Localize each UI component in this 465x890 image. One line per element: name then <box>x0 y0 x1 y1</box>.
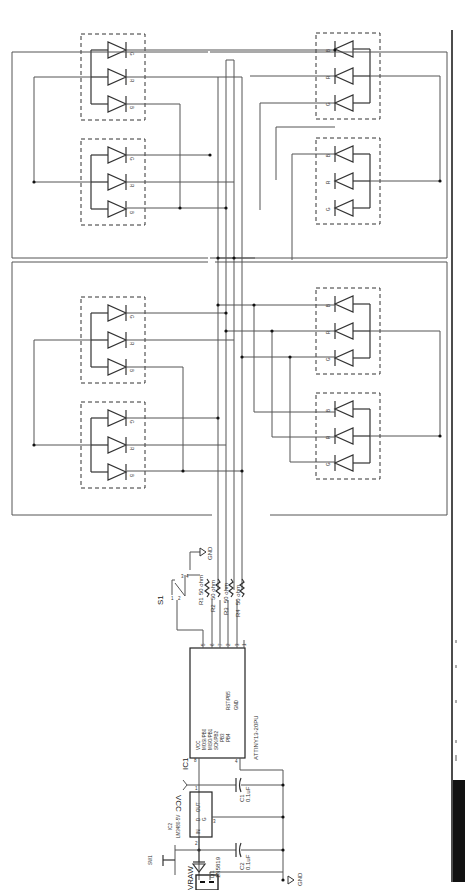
led-label-r: R <box>129 184 134 188</box>
svg-text:0.1uF: 0.1uF <box>245 854 251 870</box>
svg-text:R1: R1 <box>198 597 204 605</box>
svg-text:4: 4 <box>235 759 238 764</box>
svg-text:50 ohm: 50 ohm <box>210 580 216 600</box>
svg-text:50 ohm: 50 ohm <box>235 585 241 605</box>
svg-text:G: G <box>202 817 207 821</box>
svg-text:MOSI/PB0: MOSI/PB0 <box>202 728 207 750</box>
led-label-g: G <box>326 462 331 466</box>
led-label-b: B <box>129 211 134 214</box>
regulator-ic2: OUT D G IN IC2 LM3480-5V 3 1 2 <box>168 786 283 846</box>
resistor-r4: R4 50 ohm <box>235 579 244 617</box>
svg-text:GND: GND <box>207 546 213 560</box>
led-label-b: B <box>129 474 134 477</box>
svg-text:2: 2 <box>195 841 198 846</box>
svg-text:GND: GND <box>234 699 239 710</box>
svg-text:1: 1 <box>171 596 174 601</box>
svg-text:R4: R4 <box>235 609 241 617</box>
caption-strip <box>452 30 465 882</box>
gnd-symbol-bottom: GND <box>288 872 303 886</box>
svg-text:PB3: PB3 <box>220 733 225 742</box>
svg-text:2: 2 <box>178 596 181 601</box>
led-label-g: G <box>129 315 134 319</box>
schematic-canvas: G R B G R B G R B G R B B R G B R G B R … <box>0 0 465 890</box>
svg-text:VRAW: VRAW <box>186 866 195 890</box>
svg-text:R2: R2 <box>210 604 216 612</box>
switch-sw1: SW1 <box>148 845 175 875</box>
svg-text:GND: GND <box>297 872 303 886</box>
led-label-g: G <box>129 420 134 424</box>
led-label-b: B <box>129 106 134 109</box>
led-label-g: G <box>326 357 331 361</box>
led-label-r: R <box>129 447 134 451</box>
svg-text:0.1uF: 0.1uF <box>245 786 251 802</box>
svg-text:VCC: VCC <box>174 795 183 812</box>
resistor-r3: R3 50 ohm <box>223 579 233 615</box>
led-label-r: R <box>129 342 134 346</box>
svg-text:VCC: VCC <box>196 740 201 750</box>
ic1-ref: IC1 <box>181 757 190 770</box>
svg-text:S1: S1 <box>156 595 165 605</box>
svg-text:MISO/PB1: MISO/PB1 <box>208 728 213 750</box>
gnd-symbol-top: GND <box>190 546 213 570</box>
led-label-g: G <box>326 207 331 211</box>
led-label-g: G <box>129 52 134 56</box>
resistor-r1: R1 50 ohm <box>198 575 209 605</box>
svg-text:1: 1 <box>195 786 198 791</box>
svg-text:8: 8 <box>194 758 197 763</box>
ic1-part-number: ATTINY13-20PU <box>253 715 259 760</box>
svg-text:SW1: SW1 <box>148 855 153 865</box>
svg-text:LM3480-5V: LM3480-5V <box>176 815 181 838</box>
svg-text:50 ohm: 50 ohm <box>198 575 204 595</box>
diode-d1: D1 1N5819 <box>193 850 221 878</box>
wiring <box>12 48 447 590</box>
led-label-r: R <box>129 79 134 83</box>
svg-text:PB4: PB4 <box>226 733 231 742</box>
svg-text:IN: IN <box>196 830 201 835</box>
svg-text:IC2: IC2 <box>168 823 173 831</box>
led-label-b: B <box>129 369 134 372</box>
capacitor-c2: C2 0.1uF <box>236 843 283 870</box>
switch-s1: S1 1 2 3 4 <box>156 574 203 630</box>
svg-text:R3: R3 <box>223 607 229 615</box>
svg-text:50 ohm: 50 ohm <box>223 583 229 603</box>
svg-text:SCK/PB2: SCK/PB2 <box>214 730 219 750</box>
svg-text:3: 3 <box>213 819 216 824</box>
svg-text:OUT: OUT <box>196 802 201 812</box>
svg-text:RST/PB5: RST/PB5 <box>226 691 231 710</box>
led-label-r: R <box>326 180 331 184</box>
power-and-mcu: VCC MOSI/PB0 MISO/PB1 SCK/PB2 PB3 PB4 RS… <box>148 546 303 890</box>
svg-text:3: 3 <box>181 574 184 579</box>
led-label-g: G <box>129 157 134 161</box>
